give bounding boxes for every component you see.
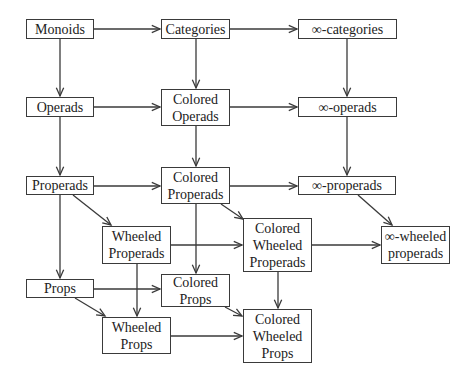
edge-arrow-operads-to-colored-operads xyxy=(94,103,160,110)
edge-arrow-colored-operads-to-colored-properads xyxy=(192,126,199,166)
node-label-line: Wheeled xyxy=(112,228,162,245)
edge-arrow-colored-properads-to-inf-properads xyxy=(230,182,297,189)
edge-arrow-props-to-wheeled-props xyxy=(75,298,105,316)
node-operads: Operads xyxy=(26,97,94,117)
node-categories: Categories xyxy=(161,19,230,39)
node-colored-wheeled-props: ColoredWheeledProps xyxy=(243,309,312,363)
node-label-line: ∞-properads xyxy=(312,177,382,194)
node-inf-wheeled-properads: ∞-wheeledproperads xyxy=(381,226,450,264)
node-props: Props xyxy=(26,279,94,298)
node-label-line: Properads xyxy=(32,177,88,194)
arrowhead-icon xyxy=(96,309,105,316)
node-properads: Properads xyxy=(26,176,94,195)
node-inf-properads: ∞-properads xyxy=(298,176,396,195)
node-label-line: Properads xyxy=(250,254,306,271)
edge-arrow-operads-to-properads xyxy=(56,117,63,175)
edge-arrow-inf-properads-to-inf-wheeled-properads xyxy=(358,195,392,225)
edge-arrow-categories-to-colored-operads xyxy=(192,39,199,88)
edge-arrow-monoids-to-operads xyxy=(56,39,63,96)
node-label-line: Properads xyxy=(168,186,224,203)
node-label-line: Colored xyxy=(255,220,300,237)
edge-arrow-inf-operads-to-inf-properads xyxy=(343,117,350,175)
edge-arrow-colored-wheeled-properads-to-inf-wheeled-properads xyxy=(312,241,380,248)
node-label-line: ∞-wheeled xyxy=(385,228,446,245)
node-label-line: Operads xyxy=(172,108,219,125)
node-label-line: Operads xyxy=(37,99,84,116)
node-label-line: Colored xyxy=(173,274,218,291)
node-label-line: Wheeled xyxy=(253,328,303,345)
edge-arrow-colored-operads-to-inf-operads xyxy=(230,103,297,110)
node-label-line: ∞-categories xyxy=(312,21,383,38)
edge-arrow-colored-wheeled-properads-to-colored-wheeled-props xyxy=(274,272,281,308)
edge-arrow-properads-to-colored-properads xyxy=(94,182,160,189)
edge-arrow-colored-properads-to-colored-wheeled-properads xyxy=(221,204,243,219)
edge-arrow-colored-properads-to-colored-props xyxy=(192,204,199,273)
node-label-line: Colored xyxy=(255,311,300,328)
node-label-line: Colored xyxy=(173,169,218,186)
node-label-line: Props xyxy=(44,280,76,297)
node-label-line: Props xyxy=(180,291,212,308)
edge-arrow-colored-props-to-colored-wheeled-props xyxy=(225,307,242,316)
edge-arrow-props-to-colored-props xyxy=(94,285,160,292)
node-colored-wheeled-properads: ColoredWheeledProperads xyxy=(243,218,312,272)
edge-arrow-properads-to-props xyxy=(56,195,63,278)
node-monoids: Monoids xyxy=(26,19,94,39)
edge-arrow-properads-to-wheeled-properads xyxy=(73,195,111,225)
node-inf-categories: ∞-categories xyxy=(298,19,397,39)
edge-arrow-inf-categories-to-inf-operads xyxy=(343,39,350,96)
node-label-line: Categories xyxy=(166,21,226,38)
node-label-line: Wheeled xyxy=(253,237,303,254)
node-label-line: properads xyxy=(388,245,443,262)
node-wheeled-properads: WheeledProperads xyxy=(102,226,171,264)
edge-arrow-monoids-to-categories xyxy=(94,25,160,32)
node-label-line: Wheeled xyxy=(112,319,162,336)
node-label-line: ∞-operads xyxy=(318,99,376,116)
edge-arrow-wheeled-properads-to-colored-wheeled-properads xyxy=(171,241,242,248)
node-label-line: Properads xyxy=(109,245,165,262)
node-label-line: Props xyxy=(121,336,153,353)
edge-arrow-wheeled-properads-to-wheeled-props xyxy=(133,264,140,316)
hierarchy-diagram: MonoidsCategories∞-categoriesOperadsColo… xyxy=(0,0,473,383)
edge-arrow-wheeled-props-to-colored-wheeled-props xyxy=(171,332,242,339)
node-colored-properads: ColoredProperads xyxy=(161,167,230,204)
node-label-line: Props xyxy=(262,345,294,362)
arrowhead-icon xyxy=(234,211,243,219)
node-wheeled-props: WheeledProps xyxy=(102,317,171,354)
node-label-line: Monoids xyxy=(35,21,85,38)
node-label-line: Colored xyxy=(173,91,218,108)
node-inf-operads: ∞-operads xyxy=(298,97,397,117)
node-colored-props: ColoredProps xyxy=(161,274,230,307)
node-colored-operads: ColoredOperads xyxy=(161,89,230,126)
edge-arrow-categories-to-inf-categories xyxy=(230,25,297,32)
